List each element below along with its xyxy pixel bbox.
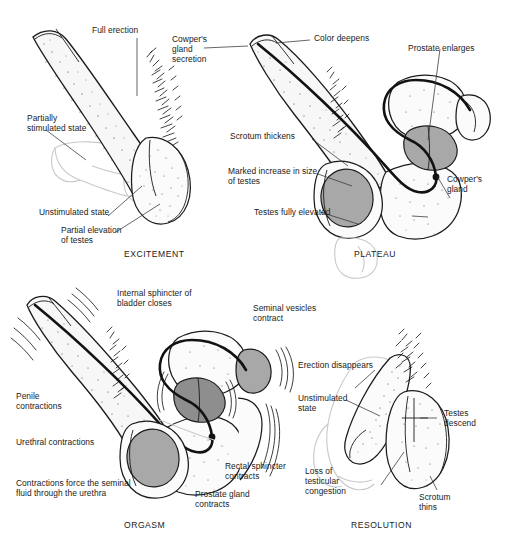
label-internal-sphincter-of-bladder-closes: Internal sphincter of bladder closes: [117, 288, 192, 308]
leader-loss-testicular-congestion: [381, 452, 404, 485]
label-full-erection: Full erection: [92, 25, 138, 35]
label-testes-descend: Testes descend: [444, 408, 476, 428]
resolution-glans-line: [350, 430, 366, 458]
prostate-orgasm-midline: [198, 378, 200, 422]
plateau-glans-tip: [252, 40, 277, 46]
panel-title-excitement: EXCITEMENT: [124, 249, 184, 259]
orgasm-pubic-hair: [107, 327, 129, 398]
resolution-penis: [345, 355, 411, 464]
prostate-orgasm: [174, 378, 225, 422]
panel-title-resolution: RESOLUTION: [351, 520, 412, 530]
label-scrotum-thins: Scrotum thins: [419, 492, 451, 512]
ghost-flaccid-tip: [52, 148, 80, 182]
panel-title-orgasm: ORGASM: [124, 520, 165, 530]
seminal-vesicle-plateau: [456, 95, 490, 140]
label-urethral-contractions: Urethral contractions: [16, 437, 94, 447]
label-unstimulated-state: Unstimulated state: [39, 207, 109, 217]
label-erection-disappears: Erection disappears: [298, 360, 373, 370]
label-partial-elevation-of-testes: Partial elevation of testes: [61, 225, 121, 245]
plateau-corona: [272, 36, 294, 64]
panel-title-plateau: PLATEAU: [354, 249, 396, 259]
orgasm-shaft: [27, 296, 170, 450]
label-seminal-vesicles-contract: Seminal vesicles contract: [253, 303, 316, 323]
plateau-pelvis-stipple: [396, 180, 449, 235]
ghost-scrotum: [124, 151, 167, 203]
ejaculatory-duct-orgasm: [160, 340, 246, 436]
urethral-duct-orgasm: [35, 305, 212, 452]
label-partially-stimulated-state: Partially stimulated state: [27, 113, 86, 133]
orgasm-glans-tip: [29, 301, 54, 307]
orgasm-shaft-stipple: [42, 320, 159, 447]
orgasm-testis: [123, 426, 183, 491]
prostate-midline: [428, 126, 430, 170]
resolution-scrotum: [386, 391, 449, 489]
label-scrotum-thickens: Scrotum thickens: [230, 131, 295, 141]
leader-partial-elevation: [116, 204, 160, 232]
leader-unstimulated-state: [108, 186, 142, 216]
leader-marked-increase: [318, 174, 352, 186]
scrotum-right-fold: [168, 148, 188, 222]
plateau-pubic-hair: [327, 67, 349, 138]
testis-marker: [402, 398, 428, 442]
leader-unstimulated-resolution: [346, 400, 380, 416]
plateau-scrotum-fold: [324, 170, 330, 226]
leader-cowpers-secretion: [204, 46, 248, 48]
plateau-illustration: [204, 35, 490, 278]
sexual-response-cycle-figure: Full erection Partially stimulated state…: [0, 0, 506, 553]
leader-scrotum-thickens: [312, 139, 348, 166]
plateau-scrotum: [314, 161, 382, 238]
label-loss-of-testicular-congestion: Loss of testicular congestion: [305, 466, 346, 497]
label-testes-fully-elevated: Testes fully elevated: [254, 207, 330, 217]
vas-deferens-loop-plateau: [384, 80, 470, 176]
ghost-flaccid-shaft: [55, 142, 155, 197]
leader-color-deepens: [276, 40, 310, 43]
label-cowpers-gland-secretion: Cowper's gland secretion: [172, 34, 207, 65]
scrotum-excitement: [132, 137, 191, 224]
seminal-vesicle-contraction-lines: [276, 347, 293, 392]
ghost-shaft-crease: [92, 166, 130, 176]
orgasm-bladder-stipple: [186, 346, 231, 387]
label-contractions-force-seminal-fluid: Contractions force the seminal fluid thr…: [16, 478, 131, 498]
bladder: [389, 75, 467, 140]
penile-contraction-lines: [11, 288, 98, 360]
seminal-vesicle-orgasm: [236, 349, 271, 393]
label-rectal-sphincter-contracts: Rectal sphincter contracts: [225, 461, 286, 481]
plateau-testis: [317, 166, 377, 231]
label-penile-contractions: Penile contractions: [16, 391, 62, 411]
leader-erection-disappears: [355, 370, 375, 388]
resolution-pubic-hair: [396, 329, 431, 388]
orgasm-pelvic-mass: [160, 416, 243, 495]
label-color-deepens: Color deepens: [314, 33, 369, 43]
scrotum-raphe: [149, 140, 156, 196]
orgasm-ghost-line: [160, 420, 214, 440]
label-prostate-gland-contracts: Prostate gland contracts: [195, 489, 250, 509]
label-prostate-enlarges: Prostate enlarges: [408, 43, 475, 53]
leader-partially-stimulated: [46, 130, 86, 160]
seminal-vesicle-fold: [466, 102, 476, 132]
resolution-penis-stipple: [358, 366, 401, 453]
resolution-scrotum-stipple: [402, 404, 441, 481]
prostate-contraction-lines: [157, 372, 236, 418]
scrotum-stipple: [140, 150, 183, 217]
label-marked-increase-in-size-of-testes: Marked increase in size of testes: [228, 166, 317, 186]
leader-prostate-enlarges: [428, 49, 440, 140]
leader-scrotum-thins: [430, 476, 437, 490]
glans-corona-line: [56, 29, 79, 62]
orgasm-pelvis-stipple: [176, 436, 229, 491]
cowpers-gland-node-plateau: [433, 174, 440, 181]
bladder-stipple: [406, 90, 451, 131]
orgasm-bladder: [169, 331, 247, 396]
cowpers-gland-node-orgasm: [209, 434, 216, 441]
glans-tip-line: [35, 34, 62, 39]
resolution-scrotum-raphe: [405, 396, 410, 472]
label-cowpers-gland: Cowper's gland: [447, 174, 482, 194]
prostate-plateau: [404, 126, 457, 170]
orgasm-corona: [49, 298, 71, 326]
leader-perineum: [412, 216, 428, 217]
label-unstimulated-state: Unstimulated state: [298, 393, 347, 413]
shaft-stipple: [44, 40, 151, 183]
